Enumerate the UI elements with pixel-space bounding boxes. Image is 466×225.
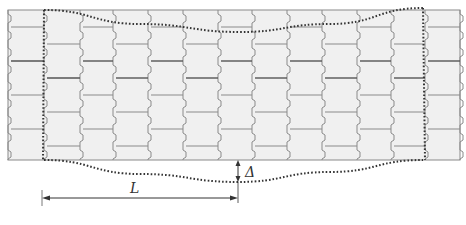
deflection-label: Δ: [244, 164, 255, 180]
block-wall: [8, 10, 463, 160]
wall-deflection-diagram: Δ L: [0, 0, 466, 225]
arrowhead-up-icon: [236, 160, 241, 166]
arrowhead-left-icon: [42, 196, 50, 201]
dimension-annotations: Δ L: [42, 160, 255, 206]
deformed-bottom-edge: [44, 160, 423, 182]
arrowhead-right-icon: [230, 196, 238, 201]
arrowhead-down-icon: [236, 176, 241, 182]
span-label: L: [129, 180, 139, 196]
